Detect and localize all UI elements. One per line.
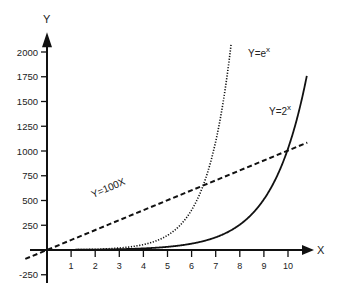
y-tick-label: 250: [22, 220, 38, 231]
y-axis-label: Y: [43, 13, 51, 25]
x-tick-label: 10: [283, 261, 293, 271]
x-tick-label: 2: [93, 261, 98, 271]
y-tick-label: 1500: [17, 96, 38, 107]
x-tick-label: 4: [141, 261, 146, 271]
label-100x: Y=100X: [89, 176, 127, 200]
chart: YX 12345678910-2502505007501000125015001…: [0, 0, 338, 296]
y-tick-label: -250: [19, 269, 38, 280]
series-exp-x: [47, 44, 231, 250]
y-tick-label: 2000: [17, 47, 38, 58]
x-tick-label: 9: [261, 261, 266, 271]
series-labels: Y=exY=2xY=100X: [89, 45, 291, 200]
label-2-pow-x: Y=2x: [269, 103, 291, 117]
x-tick-label: 1: [69, 261, 74, 271]
svg-text:Y=ex: Y=ex: [248, 45, 270, 59]
x-axis-label: X: [317, 244, 325, 256]
y-tick-label: 500: [22, 195, 38, 206]
x-tick-label: 5: [165, 261, 170, 271]
curves: [25, 44, 307, 259]
y-axis-arrow-icon: [42, 32, 52, 47]
series-100x: [25, 143, 307, 259]
x-tick-label: 6: [189, 261, 194, 271]
y-tick-label: 1250: [17, 121, 38, 132]
svg-text:Y=100X: Y=100X: [89, 176, 127, 200]
x-axis-arrow-icon: [302, 245, 314, 255]
x-tick-label: 8: [237, 261, 242, 271]
y-tick-label: 1750: [17, 71, 38, 82]
y-tick-label: 750: [22, 170, 38, 181]
svg-text:Y=2x: Y=2x: [269, 103, 291, 117]
y-tick-label: 1000: [17, 146, 38, 157]
series-2-pow-x: [47, 76, 307, 250]
axes: YX: [30, 13, 325, 283]
x-tick-label: 3: [117, 261, 122, 271]
x-tick-label: 7: [213, 261, 218, 271]
label-exp-x: Y=ex: [248, 45, 270, 59]
